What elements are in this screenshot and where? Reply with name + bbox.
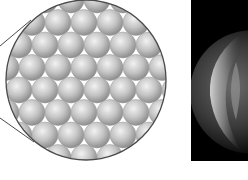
packed-sphere — [32, 32, 58, 58]
packed-sphere — [45, 100, 71, 126]
packed-sphere — [19, 55, 45, 81]
packed-sphere — [84, 77, 110, 103]
packed-sphere — [162, 122, 188, 148]
packed-sphere — [0, 10, 19, 36]
packed-sphere — [58, 77, 84, 103]
packed-sphere — [71, 100, 97, 126]
packed-sphere — [0, 122, 6, 148]
packed-sphere — [0, 145, 19, 171]
packed-sphere — [136, 167, 162, 180]
packed-sphere — [71, 145, 97, 171]
packed-sphere — [162, 0, 188, 13]
packed-sphere — [84, 167, 110, 180]
packed-sphere — [71, 55, 97, 81]
packed-sphere — [110, 122, 136, 148]
packed-sphere — [110, 77, 136, 103]
magnified-sphere-packing — [0, 0, 201, 180]
packed-sphere — [0, 0, 6, 13]
packed-sphere — [84, 122, 110, 148]
packed-sphere — [45, 55, 71, 81]
packed-sphere — [58, 167, 84, 180]
packed-sphere — [136, 77, 162, 103]
packed-sphere — [97, 55, 123, 81]
packed-sphere — [58, 32, 84, 58]
packed-sphere — [162, 167, 188, 180]
packed-sphere — [97, 100, 123, 126]
packed-sphere — [0, 167, 6, 180]
packed-sphere — [19, 100, 45, 126]
packed-sphere — [32, 122, 58, 148]
packed-sphere — [123, 100, 149, 126]
micrograph-panel — [190, 0, 248, 161]
packed-sphere — [32, 167, 58, 180]
packed-sphere — [0, 77, 6, 103]
figure — [0, 0, 248, 180]
packed-sphere — [6, 77, 32, 103]
packed-sphere — [6, 167, 32, 180]
packed-sphere — [32, 77, 58, 103]
packed-sphere — [97, 145, 123, 171]
packed-sphere — [123, 10, 149, 36]
packed-sphere — [71, 10, 97, 36]
packed-sphere — [162, 32, 188, 58]
packed-sphere — [123, 55, 149, 81]
packed-sphere — [149, 55, 175, 81]
packed-sphere — [149, 145, 175, 171]
packed-sphere — [110, 32, 136, 58]
packed-sphere — [97, 10, 123, 36]
packed-sphere — [110, 167, 136, 180]
packed-sphere — [19, 145, 45, 171]
packed-sphere — [6, 0, 32, 13]
packed-sphere — [45, 10, 71, 36]
packed-sphere — [149, 10, 175, 36]
packed-sphere — [136, 122, 162, 148]
packed-sphere — [136, 0, 162, 13]
packed-sphere — [58, 122, 84, 148]
packed-sphere — [84, 32, 110, 58]
